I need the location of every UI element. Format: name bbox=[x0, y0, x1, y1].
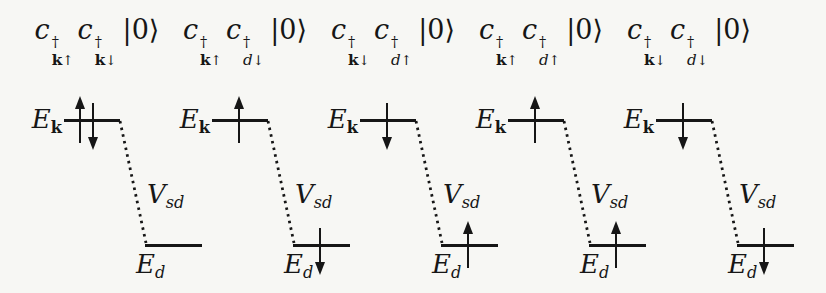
energy-subscript: k bbox=[347, 118, 358, 137]
upper-level-label: Ek bbox=[158, 104, 210, 137]
dagger-symbol: † bbox=[95, 35, 102, 49]
operator-scripts: †k↓ bbox=[644, 35, 666, 68]
upper-level-spin-arrows bbox=[212, 96, 269, 150]
energy-symbol: E bbox=[476, 104, 495, 134]
upper-level-label: Ek bbox=[454, 104, 506, 137]
operator-subscript: d↑ bbox=[391, 53, 412, 68]
subscript-letter: k bbox=[496, 51, 506, 69]
spin-subscript-arrow-icon: ↑ bbox=[507, 52, 518, 68]
creation-operator: c bbox=[522, 14, 537, 45]
operator-subscript: k↑ bbox=[496, 53, 518, 68]
dagger-symbol: † bbox=[200, 35, 207, 49]
creation-operator: c bbox=[226, 14, 241, 45]
energy-symbol: E bbox=[728, 249, 747, 279]
spin-subscript-arrow-icon: ↑ bbox=[549, 52, 560, 68]
operator-subscript: d↓ bbox=[687, 53, 708, 68]
spin-up-arrow-icon bbox=[74, 96, 86, 144]
coupling-label: Vsd bbox=[739, 179, 776, 212]
spin-down-arrow-icon bbox=[381, 102, 393, 150]
operator-scripts: †d↓ bbox=[687, 35, 708, 68]
spin-subscript-arrow-icon: ↓ bbox=[655, 52, 666, 68]
energy-subscript: k bbox=[199, 118, 210, 137]
operator-subscript: k↓ bbox=[95, 53, 117, 68]
subscript-letter: k bbox=[200, 51, 210, 69]
subscript-letter: k bbox=[95, 51, 105, 69]
spin-up-arrow-icon bbox=[529, 96, 541, 144]
energy-symbol: E bbox=[328, 104, 347, 134]
operator-scripts: †d↓ bbox=[243, 35, 264, 68]
operator-subscript: k↑ bbox=[200, 53, 222, 68]
operator-subscript: k↓ bbox=[644, 53, 666, 68]
coupling-subscript: sd bbox=[758, 193, 777, 212]
subscript-letter: k bbox=[348, 51, 358, 69]
state-panel-5: c†k↓c†d↓|0⟩ Ek Vsd Ed bbox=[592, 0, 797, 293]
spin-subscript-arrow-icon: ↓ bbox=[697, 52, 708, 68]
energy-subscript: k bbox=[643, 118, 654, 137]
operator-subscript: k↑ bbox=[52, 53, 74, 68]
dagger-symbol: † bbox=[644, 35, 651, 49]
upper-level-spin-arrows bbox=[508, 96, 565, 150]
creation-operator: c bbox=[78, 14, 93, 45]
operator-scripts: †k↑ bbox=[200, 35, 222, 68]
dagger-symbol: † bbox=[52, 35, 59, 49]
energy-subscript: k bbox=[51, 118, 62, 137]
upper-level-label: Ek bbox=[602, 104, 654, 137]
upper-level-spin-arrows bbox=[360, 96, 417, 150]
spin-subscript-arrow-icon: ↑ bbox=[211, 52, 222, 68]
creation-operator: c bbox=[627, 14, 642, 45]
energy-symbol: E bbox=[32, 104, 51, 134]
operator-scripts: †k↑ bbox=[52, 35, 74, 68]
lower-level-label: Ed bbox=[728, 249, 757, 282]
coupling-symbol: V bbox=[739, 179, 758, 209]
spin-up-arrow-icon bbox=[233, 96, 245, 144]
subscript-letter: k bbox=[644, 51, 654, 69]
spin-down-arrow-icon bbox=[87, 102, 99, 150]
operator-scripts: †d↑ bbox=[391, 35, 412, 68]
creation-operator: c bbox=[670, 14, 685, 45]
dagger-symbol: † bbox=[391, 35, 398, 49]
spin-down-arrow-icon bbox=[677, 102, 689, 150]
spin-subscript-arrow-icon: ↑ bbox=[62, 52, 73, 68]
spin-subscript-arrow-icon: ↓ bbox=[253, 52, 264, 68]
subscript-letter: d bbox=[391, 51, 401, 69]
dagger-symbol: † bbox=[539, 35, 546, 49]
creation-operator: c bbox=[374, 14, 389, 45]
creation-operator: c bbox=[35, 14, 50, 45]
energy-symbol: E bbox=[180, 104, 199, 134]
energy-subscript: k bbox=[495, 118, 506, 137]
energy-subscript: d bbox=[747, 263, 757, 282]
dagger-symbol: † bbox=[496, 35, 503, 49]
operator-scripts: †k↓ bbox=[348, 35, 370, 68]
subscript-letter: d bbox=[243, 51, 253, 69]
spin-down-arrow-icon bbox=[758, 227, 770, 275]
upper-level-spin-arrows bbox=[656, 96, 713, 150]
subscript-letter: d bbox=[539, 51, 549, 69]
state-ket-label: c†k↓c†d↓|0⟩ bbox=[600, 14, 778, 68]
dagger-symbol: † bbox=[348, 35, 355, 49]
spin-subscript-arrow-icon: ↓ bbox=[105, 52, 116, 68]
vacuum-ket: |0⟩ bbox=[714, 14, 751, 45]
operator-subscript: d↓ bbox=[243, 53, 264, 68]
operator-scripts: †k↓ bbox=[95, 35, 117, 68]
subscript-letter: d bbox=[687, 51, 697, 69]
upper-level-label: Ek bbox=[10, 104, 62, 137]
creation-operator: c bbox=[183, 14, 198, 45]
spin-subscript-arrow-icon: ↑ bbox=[401, 52, 412, 68]
creation-operator: c bbox=[331, 14, 346, 45]
spin-subscript-arrow-icon: ↓ bbox=[359, 52, 370, 68]
upper-level-label: Ek bbox=[306, 104, 358, 137]
energy-symbol: E bbox=[624, 104, 643, 134]
subscript-letter: k bbox=[52, 51, 62, 69]
upper-level-spin-arrows bbox=[64, 96, 121, 150]
dagger-symbol: † bbox=[243, 35, 250, 49]
operator-subscript: k↓ bbox=[348, 53, 370, 68]
operator-scripts: †k↑ bbox=[496, 35, 518, 68]
creation-operator: c bbox=[479, 14, 494, 45]
energy-level-diagram-figure: c†k↑c†k↓|0⟩ Ek Vsd Ed c†k↑c†d↓|0⟩ Ek Vsd… bbox=[0, 0, 826, 293]
dagger-symbol: † bbox=[687, 35, 694, 49]
operator-subscript: d↑ bbox=[539, 53, 560, 68]
operator-scripts: †d↑ bbox=[539, 35, 560, 68]
